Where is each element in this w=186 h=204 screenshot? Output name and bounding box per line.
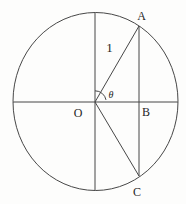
label-point-c: C: [133, 185, 141, 199]
radius-oa: [95, 26, 139, 102]
circle-diagram: A1θOBC: [0, 0, 186, 204]
geometry-figure: A1θOBC: [0, 0, 186, 204]
label-center-o: O: [74, 106, 83, 120]
segment-oc: [95, 102, 139, 176]
label-angle-theta: θ: [109, 89, 114, 100]
label-point-b: B: [142, 105, 150, 119]
label-point-a: A: [137, 9, 146, 23]
label-radius-length: 1: [106, 40, 113, 55]
